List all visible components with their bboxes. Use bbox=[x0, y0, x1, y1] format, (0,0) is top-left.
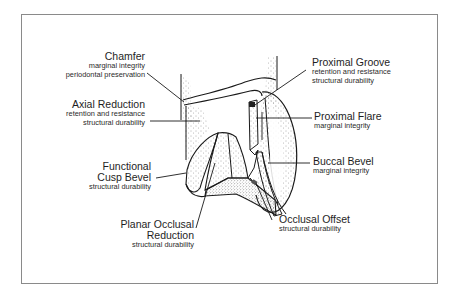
label-subtitle: structural durability bbox=[89, 183, 151, 192]
label-occlusal-offset: Occlusal Offset structural durability bbox=[279, 214, 350, 234]
tooth-preparation-illustration bbox=[0, 0, 460, 296]
label-functional-cusp-bevel: Functional Cusp Bevel structural durabil… bbox=[89, 161, 151, 192]
label-subtitle: structural durability bbox=[279, 225, 350, 234]
label-proximal-flare: Proximal Flare marginal integrity bbox=[314, 111, 382, 131]
label-subtitle: periodontal preservation bbox=[66, 71, 145, 80]
label-subtitle: structural durability bbox=[120, 241, 194, 250]
label-subtitle: marginal integrity bbox=[313, 167, 374, 176]
label-subtitle: structural durability bbox=[66, 119, 145, 128]
label-buccal-bevel: Buccal Bevel marginal integrity bbox=[313, 156, 374, 176]
leader-functional-cusp-bevel bbox=[156, 173, 186, 178]
label-chamfer: Chamfer marginal integrity periodontal p… bbox=[66, 51, 145, 80]
label-subtitle: marginal integrity bbox=[314, 122, 382, 131]
label-planar-occlusal-reduction: Planar Occlusal Reduction structural dur… bbox=[120, 219, 194, 250]
label-proximal-groove: Proximal Groove retention and resistance… bbox=[312, 57, 391, 86]
label-subtitle: structural durability bbox=[312, 77, 391, 86]
leader-chamfer bbox=[147, 73, 184, 102]
label-axial-reduction: Axial Reduction retention and resistance… bbox=[66, 99, 145, 128]
